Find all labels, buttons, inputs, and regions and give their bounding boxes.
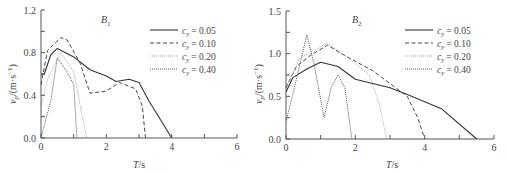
y-axis: 0.00.51.01.5 [269,6,291,145]
x-tick-label: 4 [422,142,427,153]
x-axis: 0246 [39,134,240,152]
x-tick-label: 6 [235,141,240,152]
y-tick-label: 1.0 [269,48,282,59]
series-line-dashed [41,38,146,138]
series-line-dotted-dark [41,58,77,138]
x-axis-title: T/s [386,159,398,170]
y-tick-label: 0.4 [24,90,37,101]
legend-label: cy= 0.20 [182,52,216,64]
legend-label: cy= 0.05 [182,26,216,38]
y-tick-label: 0.8 [24,47,37,58]
y-tick-label: 0.0 [24,133,37,144]
legend-label: cy= 0.20 [437,52,471,64]
series-line-dotted-dark [286,35,352,139]
plot-lines [41,38,172,138]
series-line-dashed [286,45,425,139]
y-tick-label: 0.5 [269,91,282,102]
y-tick-label: 1.5 [269,6,282,17]
chart-figure: 0246 0.00.40.81.2 B1 cy= 0.05cy= 0.10cy=… [0,0,507,174]
legend: cy= 0.05cy= 0.10cy= 0.20cy= 0.40 [405,26,471,77]
chart-panel-b2: 0246 0.00.51.01.5 B2 cy= 0.05cy= 0.10cy=… [252,6,497,171]
x-tick-label: 2 [104,141,109,152]
x-tick-label: 6 [492,142,497,153]
plot-lines [286,35,477,139]
legend-label: cy= 0.05 [437,26,471,38]
x-tick-label: 4 [169,141,174,152]
legend-label: cy= 0.40 [182,65,216,77]
series-line-dotted-light [286,43,387,139]
y-axis-title: vp/(m·s−1) [6,64,20,104]
legend: cy= 0.05cy= 0.10cy= 0.20cy= 0.40 [150,26,216,77]
chart-panel-b1: 0246 0.00.40.81.2 B1 cy= 0.05cy= 0.10cy=… [6,5,240,171]
legend-label: cy= 0.10 [182,39,216,51]
x-tick-label: 0 [284,142,289,153]
y-tick-label: 1.2 [24,5,37,16]
legend-label: cy= 0.40 [437,65,471,77]
legend-label: cy= 0.10 [437,39,471,51]
y-tick-label: 0.0 [269,134,282,145]
x-axis: 0246 [284,135,497,153]
x-tick-label: 0 [39,141,44,152]
x-axis-title: T/s [133,159,145,170]
panel-title: B2 [352,14,362,28]
x-tick-label: 2 [353,142,358,153]
panel-title: B1 [101,14,111,28]
y-axis-title: vp/(m·s−1) [252,64,266,104]
series-line-dotted-light [41,53,87,138]
y-axis: 0.00.40.81.2 [24,5,46,144]
